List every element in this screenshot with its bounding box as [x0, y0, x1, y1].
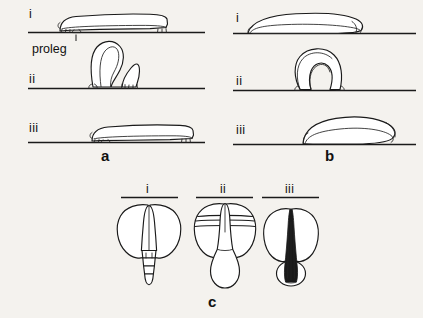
- panel-a-group: [28, 14, 205, 142]
- caterpillar-body-a-iii: [92, 125, 194, 141]
- label-a-step-iii: iii: [29, 122, 39, 135]
- abdomen-segment-2-c-i: [143, 258, 155, 266]
- caterpillar-body-a-i: [60, 14, 168, 31]
- panel-a-step-i: [28, 14, 205, 41]
- larva-body-b-i: [248, 13, 363, 33]
- panel-c-figure-ii: [194, 198, 255, 289]
- label-a-step-ii: ii: [29, 73, 35, 86]
- figure-container: i ii iii proleg i ii iii a b c i ii iii: [0, 0, 423, 318]
- looper-body-a-ii: [91, 41, 139, 87]
- abdomen-tip-c-i: [145, 274, 154, 285]
- larva-arched-body-b-ii: [295, 49, 341, 90]
- panel-b-step-iii: [233, 117, 416, 145]
- abdomen-segment-1-c-i: [142, 251, 156, 259]
- caterpillar-head-a-iii: [90, 132, 92, 138]
- label-b-step-iii: iii: [236, 124, 246, 137]
- label-c-figure-ii: ii: [220, 183, 226, 195]
- label-c-figure-iii: iii: [285, 183, 294, 195]
- abdomen-segment-3-c-i: [144, 266, 155, 274]
- panel-c-group: [117, 198, 319, 289]
- panel-b-step-ii: [233, 49, 416, 91]
- caterpillar-head-a-i: [58, 22, 60, 28]
- panel-b-group: [233, 13, 416, 144]
- panel-letter-c: c: [208, 294, 216, 309]
- label-a-step-i: i: [29, 8, 32, 21]
- label-b-step-i: i: [236, 12, 239, 25]
- panel-c-figure-iii: [262, 198, 319, 287]
- panel-letter-b: b: [325, 148, 334, 163]
- panel-a-step-iii: [28, 125, 205, 142]
- larva-body-b-iii: [303, 117, 395, 144]
- panel-letter-a: a: [101, 148, 109, 163]
- panel-b-step-i: [233, 13, 416, 33]
- panel-c-figure-i: [117, 198, 181, 285]
- label-c-figure-i: i: [146, 183, 149, 195]
- label-b-step-ii: ii: [236, 75, 242, 88]
- proleg-callout-label: proleg: [32, 43, 67, 56]
